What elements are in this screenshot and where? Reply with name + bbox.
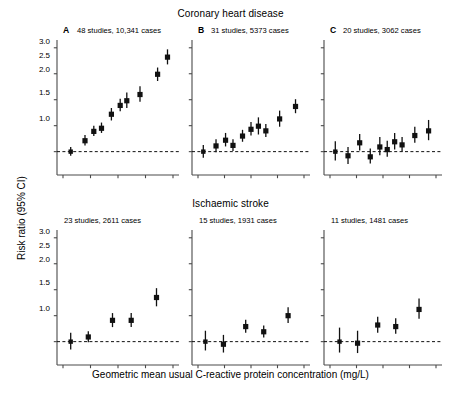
data-point — [230, 143, 235, 148]
data-point — [69, 149, 73, 153]
data-point — [109, 112, 114, 117]
data-point — [377, 144, 382, 149]
data-point — [256, 124, 261, 129]
data-point — [129, 318, 134, 323]
data-point — [165, 55, 170, 60]
data-point — [110, 318, 115, 323]
data-point — [243, 324, 248, 329]
data-point — [393, 324, 398, 329]
data-point — [203, 339, 207, 343]
data-point — [99, 126, 104, 131]
data-point — [124, 98, 129, 103]
data-point — [426, 128, 431, 133]
data-point — [368, 154, 373, 159]
data-point — [416, 307, 421, 312]
data-point — [277, 116, 282, 121]
panel-a — [54, 40, 179, 178]
data-point — [118, 103, 123, 108]
data-point — [137, 92, 142, 97]
data-point — [293, 104, 298, 109]
data-point — [69, 339, 73, 343]
data-point — [392, 139, 397, 144]
data-point — [385, 147, 390, 152]
data-point — [261, 329, 266, 334]
data-point — [221, 342, 226, 347]
data-point — [355, 341, 360, 346]
data-point — [240, 133, 245, 138]
data-point — [213, 143, 218, 148]
data-point — [357, 140, 362, 145]
data-point — [201, 149, 205, 153]
panel-f — [321, 230, 442, 368]
data-point — [86, 334, 91, 339]
data-point — [263, 128, 268, 133]
plot-canvas — [0, 0, 461, 395]
panel-c — [321, 40, 442, 178]
data-point — [286, 313, 291, 318]
figure-root: Coronary heart disease Ischaemic stroke … — [0, 0, 461, 395]
panel-b — [189, 40, 310, 178]
data-point — [337, 339, 341, 343]
data-point — [154, 295, 159, 300]
data-point — [375, 322, 380, 327]
panel-e — [189, 230, 310, 368]
data-point — [223, 138, 228, 143]
panel-d — [54, 230, 179, 368]
data-point — [248, 127, 253, 132]
data-point — [333, 149, 337, 153]
data-point — [399, 142, 404, 147]
data-point — [91, 129, 96, 134]
data-point — [155, 72, 160, 77]
data-point — [412, 133, 417, 138]
data-point — [345, 153, 350, 158]
data-point — [82, 138, 87, 143]
